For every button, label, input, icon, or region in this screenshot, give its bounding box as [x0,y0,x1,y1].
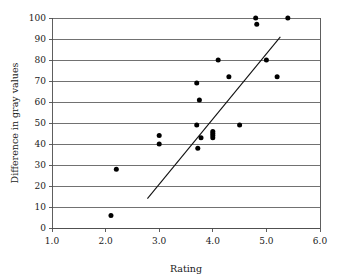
y-tick-label: 70 [35,76,47,86]
y-axis-title: Difference in gray values [9,62,20,183]
data-point [157,133,162,138]
data-point [226,74,231,79]
y-tick-label: 20 [35,181,47,191]
data-point [108,213,113,218]
x-tick-label: 5.0 [259,236,274,246]
y-tick-label: 30 [35,160,47,170]
data-point [210,135,215,140]
data-point [253,16,258,21]
trend-line [147,37,280,199]
y-tick-label: 40 [35,139,47,149]
data-point [285,16,290,21]
x-tick-label: 3.0 [152,236,167,246]
y-tick-label: 100 [29,13,46,23]
x-tick-label: 2.0 [98,236,113,246]
data-point [275,74,280,79]
y-tick-label: 10 [35,202,47,212]
y-tick-label: 50 [35,118,47,128]
data-point [216,58,221,63]
data-point [197,97,202,102]
y-tick-label: 0 [40,223,46,233]
scatter-plot-figure: 01020304050607080901001.02.03.04.05.06.0… [0,0,344,280]
data-point [199,135,204,140]
y-tick-label: 90 [35,34,47,44]
data-point [194,81,199,86]
data-point [194,123,199,128]
chart-canvas: 01020304050607080901001.02.03.04.05.06.0… [0,0,344,280]
x-tick-label: 1.0 [45,236,60,246]
data-point [237,123,242,128]
x-tick-label: 6.0 [313,236,328,246]
data-point [195,146,200,151]
x-tick-label: 4.0 [206,236,221,246]
x-axis-title: Rating [170,263,202,274]
data-point [254,22,259,27]
data-point [264,58,269,63]
y-tick-label: 60 [35,97,47,107]
data-point [114,167,119,172]
data-point [157,142,162,147]
y-tick-label: 80 [35,55,47,65]
